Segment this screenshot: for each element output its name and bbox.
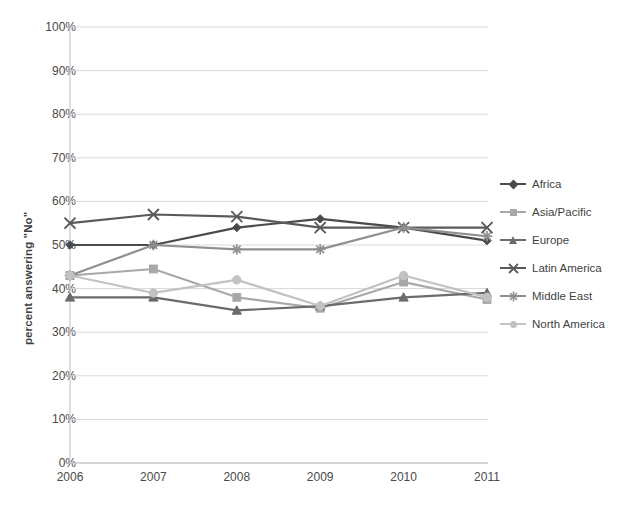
marker-north-america (66, 271, 74, 279)
legend-item-label: North America (531, 318, 605, 330)
series-line (70, 276, 487, 307)
marker-north-america (149, 289, 157, 297)
legend-item-label: Europe (531, 234, 569, 246)
marker-north-america (399, 271, 407, 279)
marker-middle-east (315, 244, 326, 255)
marker-north-america (316, 302, 324, 310)
legend-item-label: Asia/Pacific (531, 206, 591, 218)
marker-middle-east (148, 240, 159, 251)
chart-legend: AfricaAsia/PacificEuropeLatin AmericaMid… (500, 170, 625, 338)
marker-middle-east (398, 222, 409, 233)
legend-item-asia-pacific[interactable]: Asia/Pacific (500, 198, 625, 226)
legend-marker-square-icon (500, 206, 526, 218)
legend-item-label: Africa (531, 178, 561, 190)
marker-north-america (483, 293, 491, 301)
marker-north-america (233, 276, 241, 284)
legend-item-europe[interactable]: Europe (500, 226, 625, 254)
legend-item-north-america[interactable]: North America (500, 310, 625, 338)
marker-middle-east (232, 244, 243, 255)
marker-africa (233, 223, 241, 231)
marker-middle-east (482, 231, 493, 242)
series-line (70, 228, 487, 276)
marker-asia-pacific (233, 293, 241, 301)
legend-marker-triangle-icon (500, 234, 526, 246)
line-chart: percent answering "No" 0%10%20%30%40%50%… (0, 0, 631, 520)
legend-item-label: Latin America (531, 262, 602, 274)
legend-marker-circle-icon (500, 318, 526, 330)
legend-marker-asterisk-icon (500, 290, 526, 302)
legend-item-latin-america[interactable]: Latin America (500, 254, 625, 282)
legend-marker-diamond-icon (500, 178, 526, 190)
legend-item-label: Middle East (531, 290, 592, 302)
marker-africa (316, 215, 324, 223)
marker-asia-pacific (150, 265, 158, 273)
series-africa (66, 215, 491, 250)
legend-item-africa[interactable]: Africa (500, 170, 625, 198)
series-middle-east (65, 222, 493, 281)
marker-africa (66, 241, 74, 249)
series-north-america (66, 271, 491, 310)
legend-marker-x-icon (500, 262, 526, 274)
legend-item-middle-east[interactable]: Middle East (500, 282, 625, 310)
series-line (70, 214, 487, 227)
